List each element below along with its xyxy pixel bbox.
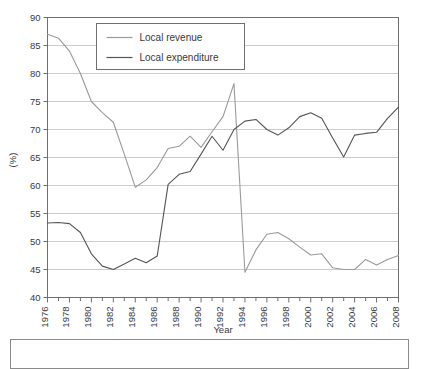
y-tick-label: 65 [30,152,41,163]
caption-box [10,339,409,369]
x-tick-label: 1994 [236,307,247,328]
x-tick-label: 1982 [104,307,115,328]
x-tick-label: 2008 [390,307,401,328]
x-tick-label: 1978 [60,307,71,328]
y-axis-title: (%) [7,153,18,168]
y-tick-label: 50 [30,236,41,247]
x-tick-label: 2006 [368,307,379,328]
y-tick-label: 70 [30,124,41,135]
x-tick-label: 1976 [39,307,50,328]
y-tick-label: 45 [30,264,41,275]
y-tick-label: 80 [30,68,41,79]
y-tick-label: 55 [30,208,41,219]
x-tick-label: 1996 [258,307,269,328]
x-tick-label: 1980 [82,307,93,328]
x-tick-label: 2004 [346,307,357,328]
x-tick-label: 2002 [324,307,335,328]
y-axis-ticks [44,18,48,298]
x-axis-ticks [48,298,399,303]
x-tick-label: 1988 [170,307,181,328]
y-axis-tick-labels: 4045505560657075808590 [30,12,41,303]
chart-legend: Local revenueLocal expenditure [97,24,245,70]
x-tick-label: 1998 [280,307,291,328]
x-axis-title: Year [213,324,232,335]
legend-label: Local expenditure [140,52,219,63]
y-tick-label: 85 [30,40,41,51]
series-line [48,107,399,269]
y-tick-label: 75 [30,96,41,107]
y-tick-label: 90 [30,12,41,23]
legend-label: Local revenue [140,32,203,43]
y-tick-label: 40 [30,292,41,303]
y-tick-label: 60 [30,180,41,191]
x-tick-label: 2000 [302,307,313,328]
x-tick-label: 1986 [148,307,159,328]
x-tick-label: 1990 [192,307,203,328]
x-tick-label: 1984 [126,307,137,328]
